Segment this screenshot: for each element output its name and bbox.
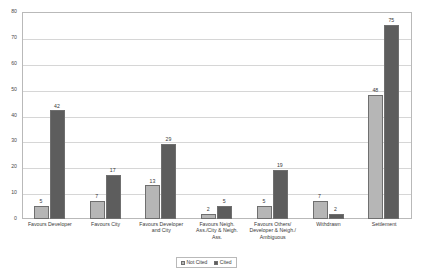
- bar: [90, 201, 105, 219]
- x-axis-label-line: Ass.: [189, 234, 245, 240]
- bar: [257, 206, 272, 219]
- y-axis-tick-label: 60: [11, 61, 17, 66]
- bar: [34, 206, 49, 219]
- chart-legend: Not CitedCited: [176, 257, 237, 268]
- x-axis-category-label: Favours Developerand City: [133, 221, 189, 234]
- x-axis-label-line: Ambiguous: [245, 234, 301, 240]
- bar: [384, 25, 399, 219]
- bar-group: 25: [189, 12, 245, 219]
- x-axis-label-line: Favours City: [78, 221, 134, 227]
- y-axis-tick-label: 40: [11, 113, 17, 118]
- x-axis-category-label: Favours Developer: [22, 221, 78, 227]
- bar: [368, 95, 383, 219]
- bar-value-label: 7: [307, 194, 333, 199]
- y-axis-tick-label: 70: [11, 35, 17, 40]
- bar-value-label: 42: [44, 104, 70, 109]
- legend-swatch-icon: [214, 261, 218, 265]
- bar-group: 542: [22, 12, 78, 219]
- y-axis-tick-label: 10: [11, 191, 17, 196]
- y-axis-tick-label: 80: [11, 9, 17, 14]
- bar: [161, 144, 176, 219]
- bar-value-label: 19: [267, 163, 293, 168]
- x-axis-category-label: Favours Others/Developer & Neigh./Ambigu…: [245, 221, 301, 240]
- y-axis: 01020304050607080: [0, 12, 20, 219]
- y-axis-tick-label: 50: [11, 87, 17, 92]
- bar: [145, 185, 160, 219]
- legend-item: Not Cited: [181, 260, 207, 265]
- bar-value-label: 2: [323, 207, 349, 212]
- bar: [329, 214, 344, 219]
- x-axis-labels: Favours DeveloperFavours CityFavours Dev…: [22, 221, 412, 251]
- bar: [50, 110, 65, 219]
- bar-value-label: 17: [100, 168, 126, 173]
- bars-layer: 542717132925519724875: [22, 12, 412, 219]
- legend-label: Not Cited: [187, 260, 208, 265]
- x-axis-label-line: Settlement: [356, 221, 412, 227]
- x-axis-label-line: Ass./City & Neigh.: [189, 227, 245, 233]
- bar-chart: 01020304050607080 542717132925519724875 …: [0, 0, 426, 276]
- y-axis-tick-label: 30: [11, 139, 17, 144]
- bar-value-label: 29: [155, 137, 181, 142]
- bar-value-label: 75: [378, 18, 404, 23]
- legend-item: Cited: [214, 260, 231, 265]
- bar-group: 519: [245, 12, 301, 219]
- x-axis-category-label: Settlement: [356, 221, 412, 227]
- x-axis-label-line: and City: [133, 227, 189, 233]
- bar-group: 72: [301, 12, 357, 219]
- legend-label: Cited: [220, 260, 232, 265]
- bar-value-label: 5: [211, 199, 237, 204]
- bar-group: 717: [78, 12, 134, 219]
- y-axis-tick-label: 20: [11, 165, 17, 170]
- x-axis-label-line: Withdrawn: [301, 221, 357, 227]
- y-axis-tick-label: 0: [14, 216, 17, 221]
- legend-swatch-icon: [181, 261, 185, 265]
- bar: [273, 170, 288, 219]
- bar: [106, 175, 121, 219]
- bar: [217, 206, 232, 219]
- bar-group: 4875: [356, 12, 412, 219]
- x-axis-category-label: Withdrawn: [301, 221, 357, 227]
- x-axis-category-label: Favours City: [78, 221, 134, 227]
- bar-group: 1329: [133, 12, 189, 219]
- bar: [201, 214, 216, 219]
- x-axis-label-line: Favours Developer: [22, 221, 78, 227]
- x-axis-category-label: Favours Neigh.Ass./City & Neigh.Ass.: [189, 221, 245, 240]
- x-axis-label-line: Developer & Neigh./: [245, 227, 301, 233]
